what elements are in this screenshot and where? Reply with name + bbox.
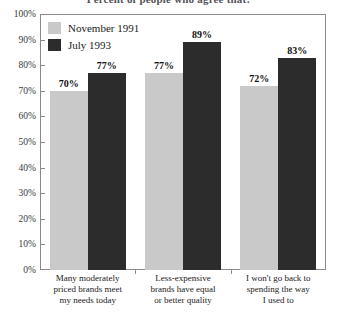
- y-tick-mark: [40, 91, 45, 92]
- bar-november-1991: 70%: [50, 91, 88, 270]
- bar-value-label: 77%: [88, 60, 126, 71]
- x-axis-label-line: Many moderately: [40, 273, 135, 284]
- x-axis-label: Many moderatelypriced brands meetmy need…: [40, 273, 135, 306]
- y-tick-label: 10%: [19, 239, 36, 249]
- y-tick-mark: [40, 219, 45, 220]
- x-axis-label-line: I won't go back to: [231, 273, 326, 284]
- bar-group: 77%89%: [145, 14, 221, 270]
- bar-chart-screenshot: Percent of people who agree that: 100%90…: [0, 0, 337, 313]
- y-tick-mark: [40, 142, 45, 143]
- x-axis-label: Less-expensivebrands have equalor better…: [135, 273, 230, 306]
- x-axis-separator-tick: [231, 270, 232, 274]
- x-axis-label-line: I used to: [231, 295, 326, 306]
- x-axis-label: I won't go back tospending the wayI used…: [231, 273, 326, 306]
- bar-value-label: 83%: [278, 45, 316, 56]
- y-tick-label: 30%: [19, 188, 36, 198]
- bar-value-label: 70%: [50, 78, 88, 89]
- x-axis-label-line: brands have equal: [135, 284, 230, 295]
- legend-swatch-icon-november-1991: [48, 22, 61, 34]
- y-tick-label: 0%: [23, 265, 36, 275]
- y-tick-mark: [40, 116, 45, 117]
- legend-item-november-1991: November 1991: [48, 20, 139, 35]
- bar-value-label: 77%: [145, 60, 183, 71]
- bar-july-1993: 77%: [88, 73, 126, 270]
- x-axis-label-line: spending the way: [231, 284, 326, 295]
- bar-november-1991: 77%: [145, 73, 183, 270]
- chart-title: Percent of people who agree that:: [0, 0, 337, 7]
- legend-item-july-1993: July 1993: [48, 37, 139, 52]
- y-tick-label: 80%: [19, 60, 36, 70]
- y-tick-label: 70%: [19, 86, 36, 96]
- legend-label-july-1993: July 1993: [68, 39, 111, 51]
- y-tick-mark: [40, 244, 45, 245]
- y-tick-label: 60%: [19, 111, 36, 121]
- x-axis-category-labels: Many moderatelypriced brands meetmy need…: [40, 273, 326, 313]
- bar-value-label: 89%: [183, 29, 221, 40]
- y-tick-mark: [40, 193, 45, 194]
- legend-label-november-1991: November 1991: [68, 22, 139, 34]
- y-axis: 100%90%80%70%60%50%40%30%20%10%0%: [0, 14, 40, 271]
- y-tick-mark: [40, 65, 45, 66]
- bar-november-1991: 72%: [240, 86, 278, 270]
- bar-group: 72%83%: [240, 14, 316, 270]
- y-tick-mark: [40, 168, 45, 169]
- y-tick-label: 40%: [19, 163, 36, 173]
- x-axis-separator-tick: [135, 270, 136, 274]
- bar-july-1993: 89%: [183, 42, 221, 270]
- x-axis-label-line: priced brands meet: [40, 284, 135, 295]
- y-tick-label: 100%: [14, 9, 36, 19]
- legend-swatch-icon-july-1993: [48, 39, 61, 51]
- x-axis-label-line: Less-expensive: [135, 273, 230, 284]
- y-tick-mark: [40, 40, 45, 41]
- chart-legend: November 1991 July 1993: [48, 20, 139, 54]
- y-tick-label: 90%: [19, 35, 36, 45]
- bar-value-label: 72%: [240, 73, 278, 84]
- y-tick-label: 50%: [19, 137, 36, 147]
- x-axis-label-line: or better quality: [135, 295, 230, 306]
- y-tick-label: 20%: [19, 214, 36, 224]
- bar-july-1993: 83%: [278, 58, 316, 270]
- x-axis-label-line: my needs today: [40, 295, 135, 306]
